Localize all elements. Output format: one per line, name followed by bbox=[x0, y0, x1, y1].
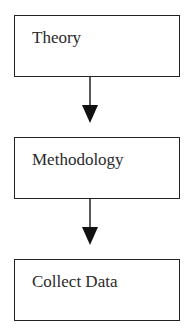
arrow-down-icon bbox=[80, 199, 100, 259]
arrow-down-icon bbox=[80, 77, 100, 137]
node-methodology: Methodology bbox=[14, 137, 180, 199]
node-label-collect-data: Collect Data bbox=[32, 272, 117, 292]
node-theory: Theory bbox=[14, 15, 180, 77]
node-label-theory: Theory bbox=[32, 28, 81, 48]
node-label-methodology: Methodology bbox=[32, 150, 124, 170]
node-collect-data: Collect Data bbox=[14, 259, 180, 321]
